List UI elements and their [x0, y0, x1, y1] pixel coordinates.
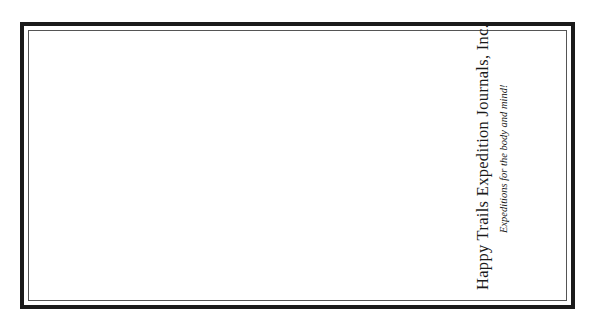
card-text-block: Happy Trails Expedition Journals, Inc. E…: [474, 30, 514, 302]
company-tagline: Expeditions for the body and mind!: [498, 85, 510, 233]
company-name: Happy Trails Expedition Journals, Inc.: [474, 24, 492, 290]
